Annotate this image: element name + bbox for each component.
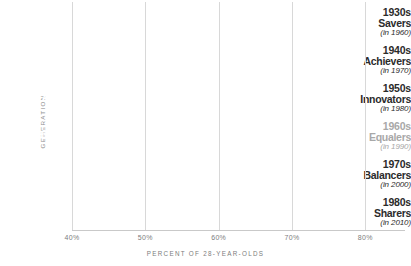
bar-value-label: 85% xyxy=(41,14,65,28)
bar-row[interactable]: 84% xyxy=(72,44,395,74)
gridline-50 xyxy=(145,2,146,230)
x-tick-40: 40% xyxy=(65,234,80,241)
y-axis-title: GENERATION xyxy=(39,62,46,182)
plot-area: 85%84%73%64%60%49% xyxy=(72,2,402,230)
gridline-80 xyxy=(365,2,366,230)
bar-row[interactable]: 49% xyxy=(72,196,138,226)
bar-row[interactable]: 85% xyxy=(72,6,402,36)
x-tick-60: 60% xyxy=(211,234,226,241)
bar-row[interactable]: 64% xyxy=(72,120,248,150)
bar-row[interactable]: 73% xyxy=(72,82,314,112)
bar-value-label: 60% xyxy=(41,166,65,180)
x-axis-title: PERCENT OF 28-YEAR-OLDS xyxy=(0,250,411,257)
bar-value-label: 49% xyxy=(41,204,65,218)
x-tick-70: 70% xyxy=(285,234,300,241)
bar-value-label: 84% xyxy=(41,52,65,66)
gridline-70 xyxy=(292,2,293,230)
bar-value-label: 64% xyxy=(41,128,65,142)
bar-value-label: 73% xyxy=(41,90,65,104)
x-tick-50: 50% xyxy=(138,234,153,241)
gridline-60 xyxy=(219,2,220,230)
x-axis-line xyxy=(72,230,405,231)
x-tick-80: 80% xyxy=(358,234,373,241)
bar-row[interactable]: 60% xyxy=(72,158,219,188)
bar-chart: GENERATION 1930sSavers(in 1960)1940sAchi… xyxy=(0,0,411,266)
